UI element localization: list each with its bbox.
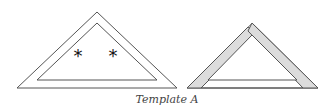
right-triangle [187, 23, 318, 88]
left-triangle: * * [17, 12, 177, 88]
star-mark-1: * [74, 45, 83, 66]
figure-caption: Template A [0, 93, 334, 106]
star-mark-2: * [109, 45, 118, 66]
